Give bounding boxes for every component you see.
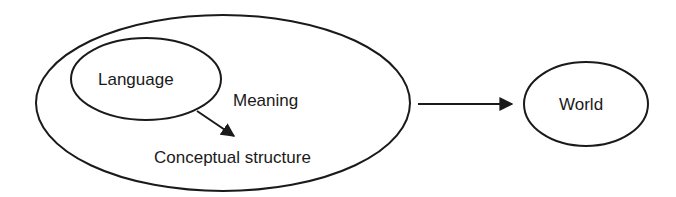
meaning-label: Meaning	[233, 91, 298, 110]
meaning-world-diagram: Language Meaning Conceptual structure Wo…	[0, 0, 676, 197]
language-label: Language	[98, 70, 174, 89]
world-label: World	[559, 95, 603, 114]
language-to-conceptual-arrow	[197, 111, 234, 136]
conceptual-structure-label: Conceptual structure	[154, 148, 311, 167]
